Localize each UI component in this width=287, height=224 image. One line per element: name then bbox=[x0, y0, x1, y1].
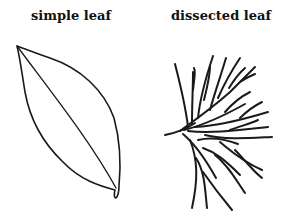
dissected-leaf-icon bbox=[165, 56, 272, 210]
simple-leaf-icon bbox=[17, 46, 120, 198]
leaf-diagram bbox=[0, 0, 287, 224]
